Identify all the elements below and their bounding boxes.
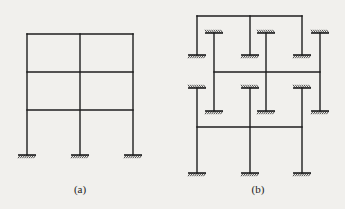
fixed-support-icon (205, 30, 223, 33)
caption-a: (a) (74, 183, 86, 195)
bottom-layer (188, 85, 311, 176)
fixed-support-icon (311, 111, 329, 114)
fixed-support-icon (18, 155, 36, 158)
fixed-support-icon (311, 30, 329, 33)
diagram-canvas: (a) (b) (0, 0, 345, 209)
panel-b-layered-frames (188, 16, 329, 176)
fixed-support-icon (241, 55, 259, 58)
top-layer (188, 16, 311, 58)
fixed-support-icon (241, 85, 259, 88)
fixed-support-icon (188, 85, 206, 88)
fixed-support-icon (241, 173, 259, 176)
fixed-support-icon (71, 155, 89, 158)
fixed-support-icon (293, 85, 311, 88)
panel-a-frame (18, 34, 142, 158)
fixed-support-icon (188, 55, 206, 58)
structural-frames-svg (0, 0, 345, 209)
caption-b: (b) (252, 183, 265, 195)
fixed-support-icon (188, 173, 206, 176)
middle-layer (205, 30, 329, 114)
fixed-support-icon (293, 173, 311, 176)
fixed-support-icon (124, 155, 142, 158)
fixed-support-icon (205, 111, 223, 114)
fixed-support-icon (257, 111, 275, 114)
fixed-support-icon (293, 55, 311, 58)
fixed-support-icon (257, 30, 275, 33)
